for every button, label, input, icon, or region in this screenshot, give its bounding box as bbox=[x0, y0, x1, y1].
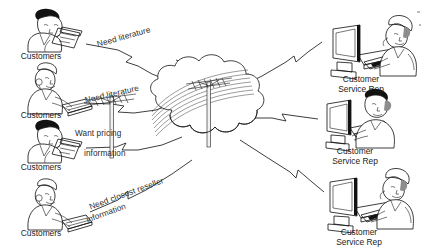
figure-csr-1 bbox=[331, 15, 416, 79]
caption-customer-1: Customers bbox=[8, 52, 74, 62]
telephone-network-cloud bbox=[88, 55, 264, 158]
caption-customer-2: Customers bbox=[8, 111, 74, 121]
stray-marks bbox=[417, 12, 421, 25]
edge-label-want-pricing-line2: information bbox=[84, 149, 126, 159]
diagram-canvas: Customers Customers Customers Customers … bbox=[0, 0, 430, 251]
caption-csr-1: Customer Service Rep bbox=[318, 75, 404, 94]
figure-customer-2 bbox=[28, 63, 92, 116]
caption-line-2: Service Rep bbox=[318, 85, 404, 95]
caption-line-2: Service Rep bbox=[316, 238, 402, 248]
caption-text: Customers bbox=[21, 51, 62, 61]
caption-csr-3: Customer Service Rep bbox=[316, 228, 402, 247]
caption-text: Customers bbox=[21, 162, 62, 172]
figure-customer-3 bbox=[28, 120, 82, 163]
connector-csr-2 bbox=[248, 114, 318, 121]
caption-customer-4: Customers bbox=[8, 229, 74, 239]
caption-customer-3: Customers bbox=[8, 163, 74, 173]
figure-csr-2 bbox=[326, 89, 394, 151]
caption-text: Customers bbox=[21, 228, 62, 238]
figure-customer-4 bbox=[28, 179, 92, 232]
figure-customer-1 bbox=[28, 9, 82, 52]
edge-label-text: information bbox=[84, 149, 126, 158]
diagram-artwork bbox=[0, 0, 430, 251]
figure-csr-3 bbox=[328, 168, 413, 233]
edge-label-text: Want pricing bbox=[75, 129, 121, 138]
caption-csr-2: Customer Service Rep bbox=[312, 147, 398, 166]
caption-line-2: Service Rep bbox=[312, 157, 398, 167]
caption-text: Customers bbox=[21, 110, 62, 120]
edge-label-want-pricing-line1: Want pricing bbox=[75, 129, 121, 139]
